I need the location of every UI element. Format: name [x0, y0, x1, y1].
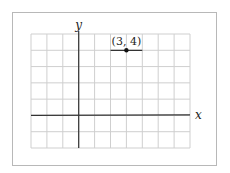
point-label: (3, 4): [112, 35, 142, 48]
x-axis-label: x: [195, 108, 202, 122]
x-axis: [31, 115, 190, 116]
point-marker: [124, 48, 128, 52]
coordinate-plane: (3, 4) x y: [0, 0, 230, 173]
grid-lines: [31, 34, 190, 148]
y-axis-label: y: [74, 18, 82, 32]
